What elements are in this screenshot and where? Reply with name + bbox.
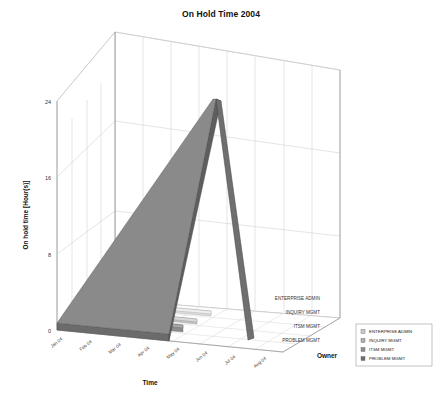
x-tick-mar-04: Mar 04 [108,342,123,355]
chart-legend: ENTERPRISE ADMIN INQUIRY MGMT ITSM MGMT … [356,324,432,366]
chart-title: On Hold Time 2004 [182,9,260,19]
legend-label-inquiry-mgmt: INQUIRY MGMT [369,338,402,343]
x-tick-jan-04: Jan 04 [50,336,64,349]
y-tick-24: 24 [45,99,51,105]
z-tick-enterprise-admin: ENTERPRISE ADMIN [275,296,320,301]
z-axis-title: Owner [317,352,338,359]
y-tick-16: 16 [45,175,51,181]
legend-swatch-enterprise-admin [361,330,365,334]
legend-swatch-problem-mgmt [361,357,365,361]
x-tick-jun-04: Jun 04 [195,350,209,363]
x-tick-may-04: May 04 [166,346,181,359]
legend-swatch-itsm-mgmt [361,348,365,352]
z-tick-itsm-mgmt: ITSM MGMT [294,324,320,329]
chart-container: On Hold Time 2004 [0,0,442,395]
legend-label-enterprise-admin: ENTERPRISE ADMIN [369,329,412,334]
y-axis-ticks: 24 16 8 0 [45,99,51,334]
on-hold-time-3d-chart: On Hold Time 2004 [0,0,442,395]
legend-label-problem-mgmt: PROBLEM MGMT [369,356,405,361]
z-tick-inquiry-mgmt: INQUIRY MGMT [286,310,320,315]
x-tick-apr-04: Apr 04 [137,345,151,358]
x-tick-aug-04: Aug 04 [253,356,268,369]
legend-swatch-inquiry-mgmt [361,339,365,343]
x-tick-jul-04: Jul 04 [224,354,237,366]
y-tick-8: 8 [48,252,51,258]
x-axis-title: Time [142,379,157,386]
legend-label-itsm-mgmt: ITSM MGMT [369,347,394,352]
y-axis-title: On hold time [Hour(s)] [22,181,30,250]
z-tick-problem-mgmt: PROBLEM MGMT [282,338,320,343]
y-tick-0: 0 [48,328,51,334]
x-tick-feb-04: Feb 04 [79,339,94,352]
